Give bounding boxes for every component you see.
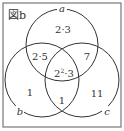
- region-b-c: 1: [59, 95, 65, 106]
- set-a-label: a: [59, 3, 65, 14]
- figure-label: 図b: [8, 9, 26, 22]
- venn-diagram: 図b a b c 2·3 2·5 7 22·3 1 1 11: [0, 0, 124, 131]
- region-a-c: 7: [84, 51, 90, 62]
- region-a-only: 2·3: [55, 24, 71, 35]
- region-a-b: 2·5: [32, 51, 48, 62]
- set-b-label: b: [17, 106, 23, 117]
- set-c-label: c: [104, 106, 110, 117]
- region-a-b-c: 22·3: [54, 67, 74, 79]
- region-b-only: 1: [27, 87, 33, 98]
- region-c-only: 11: [91, 88, 104, 99]
